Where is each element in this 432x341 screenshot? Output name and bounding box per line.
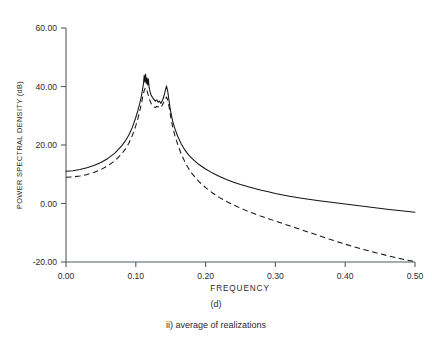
y-tick-label: 60.00 (35, 23, 57, 33)
panel-caption: (d) (211, 299, 222, 309)
series-dashed-estimate (66, 88, 415, 262)
x-tick-label: 0.00 (58, 271, 75, 281)
x-tick-label: 0.10 (127, 271, 144, 281)
sub-caption: ii) average of realizations (166, 320, 267, 330)
y-tick-label: -20.00 (33, 257, 58, 267)
y-tick-label: 20.00 (35, 140, 57, 150)
series-solid-estimate (66, 74, 415, 212)
psd-chart: -20.000.0020.0040.0060.00 0.000.100.200.… (0, 0, 432, 341)
x-axis-title: FREQUENCY (210, 284, 270, 293)
x-axis-ticks: 0.000.100.200.300.400.50 (58, 262, 424, 281)
x-tick-label: 0.20 (197, 271, 214, 281)
data-curves (66, 74, 415, 262)
y-axis-ticks: -20.000.0020.0040.0060.00 (33, 23, 66, 267)
x-tick-label: 0.40 (337, 271, 354, 281)
figure-panel: -20.000.0020.0040.0060.00 0.000.100.200.… (0, 0, 432, 341)
x-tick-label: 0.30 (267, 271, 284, 281)
y-axis-title: POWER SPECTRAL DENSITY (dB) (15, 81, 24, 209)
plot-axes (66, 28, 415, 262)
y-tick-label: 0.00 (40, 199, 57, 209)
y-tick-label: 40.00 (35, 82, 57, 92)
x-tick-label: 0.50 (407, 271, 424, 281)
